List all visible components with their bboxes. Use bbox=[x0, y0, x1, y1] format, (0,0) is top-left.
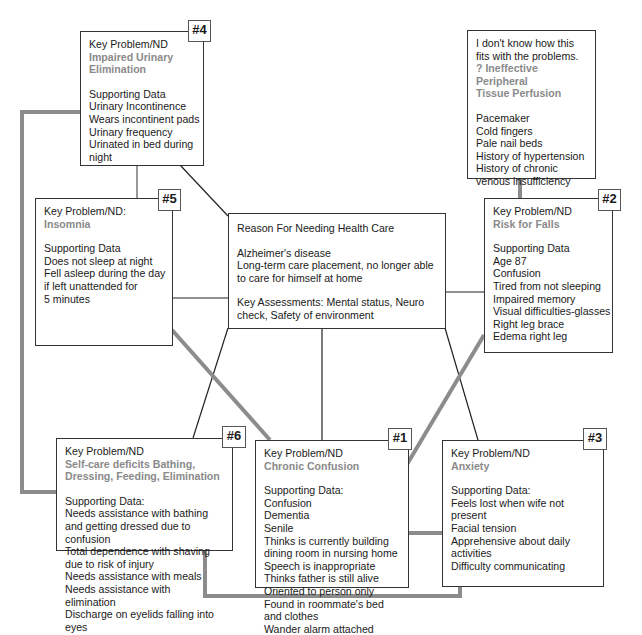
data-item: Impaired memory bbox=[493, 293, 604, 306]
nursing-diagnosis: Risk for Falls bbox=[493, 218, 604, 231]
data-item: Age 87 bbox=[493, 255, 604, 268]
data-item: due to risk of injury bbox=[65, 558, 224, 571]
nursing-diagnosis: ? Ineffective Peripheral bbox=[476, 62, 587, 87]
problem-label: Key Problem/ND: bbox=[44, 205, 164, 218]
data-item: Urinary frequency bbox=[89, 126, 195, 139]
data-item: Right leg brace bbox=[493, 318, 604, 331]
data-item: Urinary Incontinence bbox=[89, 100, 195, 113]
data-item: Needs assistance with bbox=[65, 583, 224, 596]
supporting-data-label: Supporting Data bbox=[493, 242, 604, 255]
data-item: Needs assistance with meals bbox=[65, 570, 224, 583]
problem-box-6: Key Problem/ND Self-care deficits Bathin… bbox=[56, 438, 233, 551]
data-item: Confusion bbox=[493, 267, 604, 280]
problem-label: Key Problem/ND bbox=[451, 447, 595, 460]
problem-box-1: Key Problem/ND Chronic Confusion Support… bbox=[255, 440, 409, 588]
data-item: 5 minutes bbox=[44, 293, 164, 306]
data-item: Fell asleep during the day bbox=[44, 267, 164, 280]
reason-line: to care for himself at home bbox=[237, 272, 437, 285]
problem-box-3: Key Problem/ND Anxiety Supporting Data: … bbox=[442, 440, 604, 587]
reason-line: Long-term care placement, no longer able bbox=[237, 259, 437, 272]
nursing-diagnosis: Anxiety bbox=[451, 460, 595, 473]
supporting-data-label: Supporting Data: bbox=[451, 484, 595, 497]
problem-box-4: Key Problem/ND Impaired Urinary Eliminat… bbox=[80, 31, 204, 166]
priority-badge-6: #6 bbox=[222, 426, 246, 448]
data-item: Pacemaker bbox=[476, 112, 587, 125]
data-item: History of hypertension bbox=[476, 150, 587, 163]
reason-for-care-box: Reason For Needing Health Care Alzheimer… bbox=[228, 213, 446, 329]
data-item: Apprehensive about daily bbox=[451, 535, 595, 548]
link-center-to-4 bbox=[180, 165, 228, 216]
problem-label: Key Problem/ND bbox=[89, 38, 195, 51]
reason-line: Alzheimer's disease bbox=[237, 247, 437, 260]
data-item: Found in roommate's bed bbox=[264, 598, 400, 611]
data-item: History of chronic bbox=[476, 162, 587, 175]
data-item: and clothes bbox=[264, 610, 400, 623]
link-center-to-6 bbox=[193, 328, 228, 438]
data-item: activities bbox=[451, 547, 595, 560]
data-item: Tired from not sleeping bbox=[493, 280, 604, 293]
data-item: and getting dressed due to bbox=[65, 520, 224, 533]
data-item: Total dependence with shaving bbox=[65, 545, 224, 558]
nursing-diagnosis: Chronic Confusion bbox=[264, 460, 400, 473]
problem-label: Key Problem/ND bbox=[493, 205, 604, 218]
data-item: Difficulty communicating bbox=[451, 560, 595, 573]
data-item: Needs assistance with bathing bbox=[65, 507, 224, 520]
problem-box-5: Key Problem/ND: Insomnia Supporting Data… bbox=[35, 198, 173, 346]
problem-box-2: Key Problem/ND Risk for Falls Supporting… bbox=[484, 198, 613, 353]
assessment-line: Key Assessments: Mental status, Neuro bbox=[237, 296, 437, 309]
reason-title: Reason For Needing Health Care bbox=[237, 222, 437, 235]
problem-label: Key Problem/ND bbox=[65, 445, 224, 458]
data-item: Speech is inappropriate bbox=[264, 560, 400, 573]
data-item: if left unattended for bbox=[44, 280, 164, 293]
data-item: elimination bbox=[65, 596, 224, 609]
data-item: Pale nail beds bbox=[476, 137, 587, 150]
priority-badge-5: #5 bbox=[158, 189, 181, 211]
data-item: Discharge on eyelids falling into bbox=[65, 608, 224, 621]
nursing-diagnosis: Tissue Perfusion bbox=[476, 87, 587, 100]
data-item: Wander alarm attached bbox=[264, 623, 400, 635]
supporting-data-label: Supporting Data bbox=[89, 88, 195, 101]
nursing-diagnosis: Insomnia bbox=[44, 218, 164, 231]
priority-badge-2: #2 bbox=[598, 189, 621, 211]
unlinked-intro: fits with the problems. bbox=[476, 50, 587, 63]
priority-badge-3: #3 bbox=[583, 428, 607, 450]
nursing-diagnosis: Impaired Urinary bbox=[89, 51, 195, 64]
data-item: Urinated in bed during bbox=[89, 138, 195, 151]
nursing-diagnosis: Self-care deficits Bathing, bbox=[65, 458, 224, 471]
data-item: eyes bbox=[65, 621, 224, 634]
data-item: Facial tension bbox=[451, 522, 595, 535]
nursing-diagnosis: Elimination bbox=[89, 63, 195, 76]
unlinked-intro: I don't know how this bbox=[476, 37, 587, 50]
data-item: confusion bbox=[65, 533, 224, 546]
assessment-line: check, Safety of environment bbox=[237, 309, 437, 322]
nursing-diagnosis: Dressing, Feeding, Elimination bbox=[65, 470, 224, 483]
priority-badge-1: #1 bbox=[388, 428, 412, 450]
data-item: Wears incontinent pads bbox=[89, 113, 195, 126]
problem-label: Key Problem/ND bbox=[264, 447, 400, 460]
data-item: Oriented to person only bbox=[264, 585, 400, 598]
unlinked-problem-box: I don't know how this fits with the prob… bbox=[467, 30, 596, 179]
data-item: Does not sleep at night bbox=[44, 255, 164, 268]
supporting-data-label: Supporting Data bbox=[44, 242, 164, 255]
link-5-to-1 bbox=[172, 330, 270, 440]
data-item: Edema right leg bbox=[493, 330, 604, 343]
supporting-data-label: Supporting Data: bbox=[65, 495, 224, 508]
data-item: Thinks is currently building bbox=[264, 535, 400, 548]
data-item: Feels lost when wife not bbox=[451, 497, 595, 510]
data-item: Visual difficulties-glasses bbox=[493, 305, 604, 318]
data-item: venous insufficiency bbox=[476, 175, 587, 188]
data-item: Thinks father is still alive bbox=[264, 572, 400, 585]
data-item: present bbox=[451, 509, 595, 522]
link-center-to-3 bbox=[445, 328, 478, 440]
data-item: Confusion bbox=[264, 497, 400, 510]
data-item: Cold fingers bbox=[476, 125, 587, 138]
data-item: Senile bbox=[264, 522, 400, 535]
data-item: dining room in nursing home bbox=[264, 547, 400, 560]
data-item: night bbox=[89, 151, 195, 164]
priority-badge-4: #4 bbox=[188, 20, 211, 42]
supporting-data-label: Supporting Data: bbox=[264, 484, 400, 497]
data-item: Dementia bbox=[264, 509, 400, 522]
